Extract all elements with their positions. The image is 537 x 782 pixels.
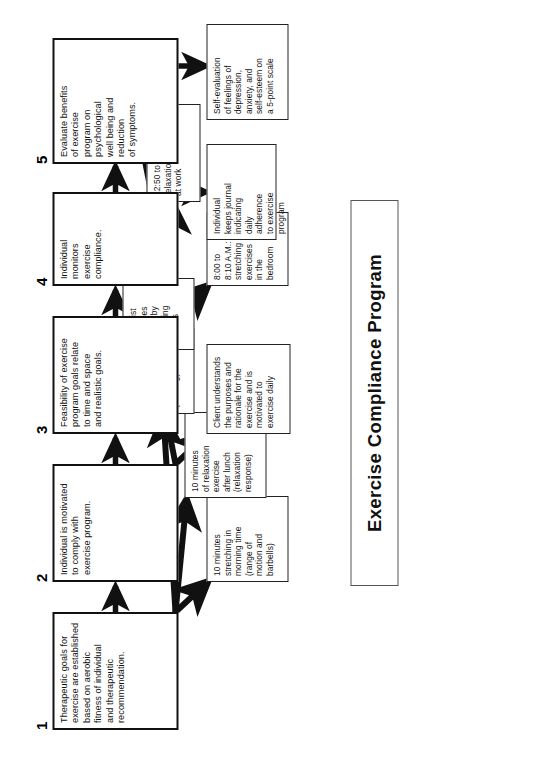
- step-sub-box-5-1: Self-evaluation of feelings of depressio…: [206, 24, 288, 120]
- diagram-canvas: Exercise Compliance Program 1 Therapeuti…: [0, 0, 537, 782]
- step-sub-box-2-1: Client understands the purposes and rati…: [206, 344, 290, 434]
- step-main-box-1: Therapeutic goals for exercise are estab…: [52, 612, 178, 730]
- step-sub-box-1-1: 10 minutes stretching in morning time (r…: [206, 496, 288, 582]
- step-number-5: 5: [32, 156, 49, 164]
- step-main-box-5: Evaluate benefits of exercise program on…: [52, 38, 178, 164]
- step-number-2: 2: [32, 574, 49, 582]
- diagram-title: Exercise Compliance Program: [350, 200, 398, 586]
- step-number-1: 1: [32, 722, 49, 730]
- step-main-box-4: Individual monitors exercise compliance.: [52, 192, 178, 286]
- step-sub-box-4-1: Individual keeps journal indicating dail…: [206, 144, 276, 240]
- step-number-3: 3: [32, 426, 49, 434]
- step-main-box-3: Feasibility of exercise program goals re…: [52, 316, 178, 434]
- step-number-4: 4: [32, 278, 49, 286]
- step-main-box-2: Individual is motivated to comply with e…: [52, 464, 178, 582]
